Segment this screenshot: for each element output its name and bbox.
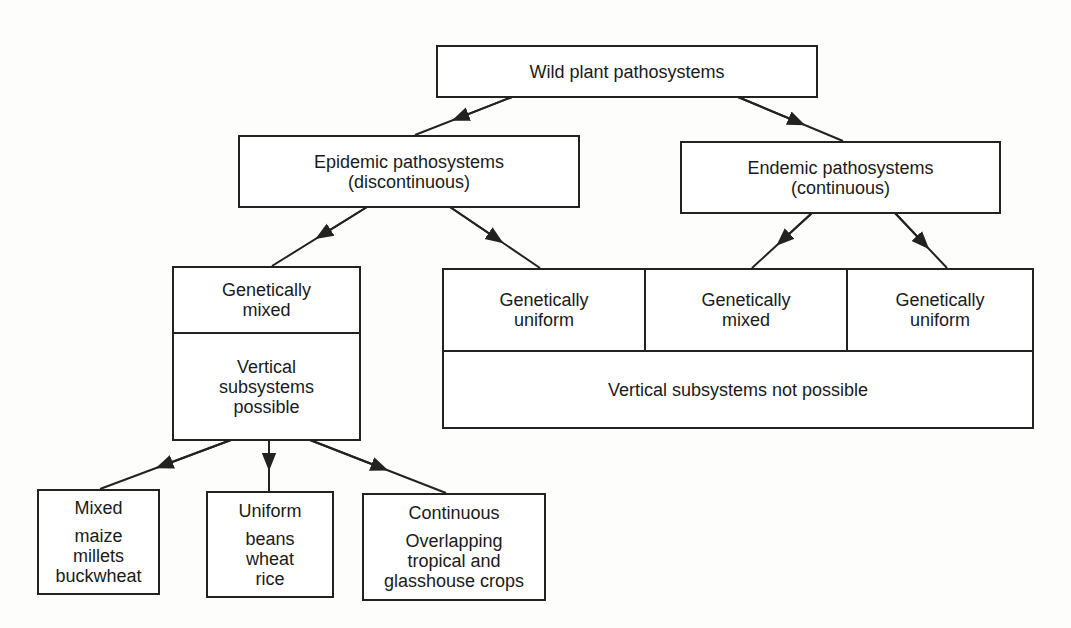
leaf-line: Overlapping [405, 531, 502, 551]
root-label: Wild plant pathosystems [529, 62, 724, 82]
cell-line: mixed [242, 300, 290, 320]
edge-vertical-continuous [310, 440, 446, 493]
leaf-heading: Mixed [74, 498, 122, 518]
leaf-line: tropical and [407, 551, 500, 571]
root-node-wild-plant-pathosystems: Wild plant pathosystems [436, 45, 818, 98]
leaf-uniform: Uniform beans wheat rice [206, 491, 334, 598]
edge-root-epidemic [415, 97, 512, 135]
cell-line: Genetically [499, 290, 588, 310]
edge-epidemic-mixed [272, 207, 367, 266]
leaf-heading: Continuous [408, 503, 499, 523]
leaf-line: wheat [246, 549, 294, 569]
node-epidemic-genetically-mixed: Genetically mixed Vertical subsystems po… [172, 266, 361, 441]
cell-line: possible [233, 397, 299, 417]
cell-vertical-subsystems-possible: Vertical subsystems possible [174, 334, 359, 439]
leaf-line: maize [74, 526, 122, 546]
leaf-line: buckwheat [55, 566, 141, 586]
endemic-title: Endemic pathosystems [747, 158, 933, 178]
edge-endemic-mixed [752, 213, 812, 268]
cell-line: Genetically [701, 290, 790, 310]
node-vertical-not-possible-group: Genetically uniform Genetically mixed Ge… [442, 268, 1034, 429]
cell-line: uniform [514, 310, 574, 330]
cell-line: Vertical [237, 357, 296, 377]
epidemic-subtitle: (discontinuous) [348, 172, 470, 192]
cell-line: mixed [722, 310, 770, 330]
edge-vertical-mixed [100, 440, 231, 489]
edge-epidemic-uniform [450, 207, 540, 268]
cell-vertical-subsystems-not-possible: Vertical subsystems not possible [444, 352, 1032, 427]
cell-line: Genetically [895, 290, 984, 310]
endemic-subtitle: (continuous) [791, 178, 890, 198]
leaf-line: beans [245, 529, 294, 549]
cell-epidemic-genetically-uniform: Genetically uniform [444, 270, 646, 352]
node-epidemic-pathosystems: Epidemic pathosystems (discontinuous) [238, 135, 580, 208]
edge-endemic-uniform [895, 213, 947, 268]
leaf-mixed: Mixed maize millets buckwheat [37, 489, 160, 595]
leaf-heading: Uniform [238, 501, 301, 521]
footer-label: Vertical subsystems not possible [608, 380, 868, 400]
cell-genetically-mixed: Genetically mixed [174, 268, 359, 334]
edge-root-endemic [738, 97, 843, 141]
cell-line: uniform [910, 310, 970, 330]
cell-endemic-genetically-mixed: Genetically mixed [646, 270, 848, 352]
cell-line: Genetically [222, 280, 311, 300]
leaf-continuous: Continuous Overlapping tropical and glas… [362, 493, 546, 601]
leaf-line: glasshouse crops [384, 571, 524, 591]
leaf-line: millets [73, 546, 124, 566]
diagram-canvas: Wild plant pathosystems Epidemic pathosy… [0, 0, 1071, 628]
leaf-line: rice [255, 569, 284, 589]
epidemic-title: Epidemic pathosystems [314, 152, 504, 172]
cell-endemic-genetically-uniform: Genetically uniform [848, 270, 1032, 352]
node-endemic-pathosystems: Endemic pathosystems (continuous) [680, 141, 1001, 214]
cell-line: subsystems [219, 377, 314, 397]
